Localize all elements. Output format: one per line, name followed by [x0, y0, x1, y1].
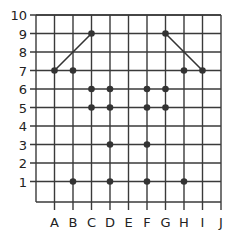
point-F6 — [144, 86, 151, 93]
point-G9 — [162, 30, 169, 37]
y-label-3: 3 — [19, 138, 27, 153]
point-D5 — [107, 104, 114, 111]
x-label-G: G — [160, 215, 170, 230]
point-G6 — [162, 86, 169, 93]
point-D1 — [107, 178, 114, 185]
y-label-7: 7 — [19, 64, 27, 79]
y-label-4: 4 — [19, 119, 27, 134]
y-label-8: 8 — [19, 45, 27, 60]
x-label-F: F — [143, 215, 150, 230]
x-label-E: E — [124, 215, 132, 230]
x-label-J: J — [218, 215, 223, 230]
x-label-C: C — [87, 215, 96, 230]
point-A7 — [51, 67, 58, 74]
point-C6 — [88, 86, 95, 93]
y-label-9: 9 — [19, 27, 27, 42]
point-F3 — [144, 141, 151, 148]
point-F5 — [144, 104, 151, 111]
point-F1 — [144, 178, 151, 185]
coordinate-grid: ABCDEFGHIJ 12345678910 — [0, 0, 225, 239]
point-B1 — [70, 178, 77, 185]
point-I7 — [199, 67, 206, 74]
y-label-6: 6 — [19, 82, 27, 97]
point-H1 — [181, 178, 188, 185]
point-D6 — [107, 86, 114, 93]
x-label-B: B — [69, 215, 78, 230]
x-axis-labels: ABCDEFGHIJ — [50, 215, 223, 230]
y-label-10: 10 — [10, 8, 27, 23]
y-axis-labels: 12345678910 — [10, 8, 27, 190]
x-label-D: D — [105, 215, 115, 230]
y-label-5: 5 — [19, 101, 27, 116]
point-D3 — [107, 141, 114, 148]
point-G5 — [162, 104, 169, 111]
x-label-A: A — [50, 215, 59, 230]
point-C5 — [88, 104, 95, 111]
grid-lines — [30, 15, 221, 210]
y-label-2: 2 — [19, 156, 27, 171]
x-label-I: I — [201, 215, 205, 230]
point-C9 — [88, 30, 95, 37]
point-B7 — [70, 67, 77, 74]
x-label-H: H — [179, 215, 189, 230]
point-H7 — [181, 67, 188, 74]
y-label-1: 1 — [19, 175, 27, 190]
